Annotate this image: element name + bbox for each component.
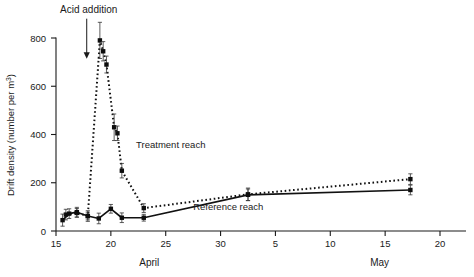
svg-text:Drift density (number per m3): Drift density (number per m3) (5, 74, 16, 196)
y-axis-title: Drift density (number per m3) (5, 74, 16, 196)
y-tick-label: 400 (30, 129, 46, 140)
chart-container: 0200400600800152025305101520AprilMayDrif… (0, 0, 474, 277)
data-point (67, 211, 71, 215)
series-label-reference-reach: Reference reach (193, 201, 263, 212)
y-tick-label: 0 (41, 226, 46, 237)
data-point (75, 210, 79, 214)
data-point (246, 193, 250, 197)
series-label-treatment-reach: Treatment reach (136, 139, 205, 150)
y-tick-label: 200 (30, 177, 46, 188)
x-axis-month-label: April (139, 257, 159, 268)
x-tick-label: 20 (106, 238, 117, 249)
data-point (142, 206, 146, 210)
x-tick-label: 20 (435, 238, 446, 249)
data-point (408, 188, 412, 192)
data-point (101, 49, 105, 53)
x-axis-month-label: May (370, 257, 389, 268)
x-tick-label: 5 (273, 238, 278, 249)
data-point (60, 218, 64, 222)
data-point (142, 216, 146, 220)
x-tick-label: 25 (160, 238, 171, 249)
data-point (115, 131, 119, 135)
y-tick-label: 600 (30, 81, 46, 92)
series-treatment-reach (64, 22, 413, 220)
data-point (120, 216, 124, 220)
drift-density-chart: 0200400600800152025305101520AprilMayDrif… (0, 0, 474, 277)
data-point (86, 214, 90, 218)
x-tick-label: 30 (215, 238, 226, 249)
acid-addition-arrow-head (84, 52, 90, 59)
x-tick-label: 15 (380, 238, 391, 249)
y-tick-label: 800 (30, 33, 46, 44)
data-point (97, 216, 101, 220)
data-point (408, 177, 412, 181)
data-point (104, 62, 108, 66)
x-tick-label: 10 (325, 238, 336, 249)
x-tick-label: 15 (51, 238, 62, 249)
acid-addition-label: Acid addition (60, 4, 117, 15)
data-point (120, 168, 124, 172)
data-point (109, 207, 113, 211)
